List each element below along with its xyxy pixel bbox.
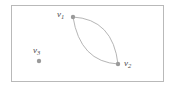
figure-root: v1 v2 v3	[0, 0, 175, 90]
vertex-label-v2-subscript: 2	[128, 62, 131, 69]
vertex-label-v1: v1	[57, 10, 64, 19]
edge-group	[73, 17, 118, 64]
vertex-label-v1-subscript: 1	[61, 13, 64, 20]
vertex-label-v2: v2	[124, 59, 131, 68]
graph-canvas	[0, 0, 175, 90]
vertex-v2	[116, 62, 120, 66]
vertex-label-v3: v3	[33, 46, 40, 55]
vertex-label-v3-subscript: 3	[37, 49, 40, 56]
vertex-v1	[71, 15, 75, 19]
vertex-group	[37, 15, 120, 66]
vertex-v3	[37, 59, 41, 63]
